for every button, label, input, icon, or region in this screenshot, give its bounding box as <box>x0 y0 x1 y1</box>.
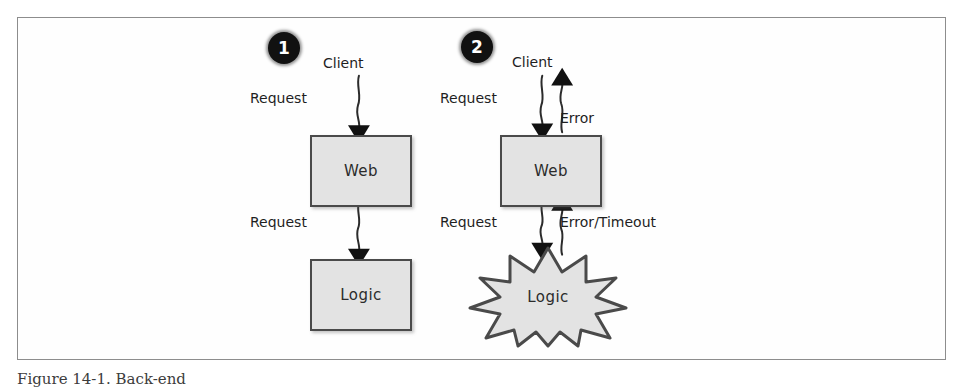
wire-client-to-web <box>540 76 542 130</box>
node-label: Logic <box>340 286 382 304</box>
node-logic-panel-1: Logic <box>310 259 412 331</box>
wire-client-to-web <box>357 76 359 130</box>
node-web-panel-1: Web <box>310 135 412 207</box>
node-label: Logic <box>527 288 569 306</box>
edge-label-request-top: Request <box>250 90 307 106</box>
node-logic-starburst-panel-2: Logic <box>468 246 628 348</box>
node-web-panel-2: Web <box>500 135 602 207</box>
figure-frame: 1 Client Request Request Web Logic 2 <box>17 17 946 360</box>
diagram-panel-1: 1 Client Request Request Web Logic <box>248 18 448 359</box>
diagram-panel-2: 2 Client Request Error Request Error/Tim… <box>438 18 738 359</box>
edge-label-error-timeout: Error/Timeout <box>560 214 656 230</box>
figure-caption: Figure 14-1. Back-end <box>17 370 186 388</box>
edge-label-request-top: Request <box>440 90 497 106</box>
edge-label-client: Client <box>512 54 553 70</box>
node-label-wrapper: Logic <box>468 246 628 348</box>
arrowhead-web-to-client <box>551 68 573 86</box>
edge-label-request-bottom: Request <box>250 214 307 230</box>
node-label: Web <box>534 162 568 180</box>
edge-label-error-top: Error <box>560 110 594 126</box>
wire-web-to-logic <box>357 202 359 253</box>
edge-label-client: Client <box>323 55 364 71</box>
wire-web-to-logic <box>540 202 542 249</box>
edge-label-request-bottom: Request <box>440 214 497 230</box>
node-label: Web <box>344 162 378 180</box>
